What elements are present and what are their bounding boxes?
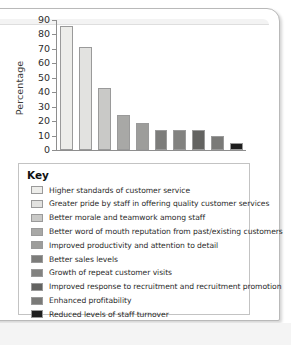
bar <box>230 143 243 150</box>
y-axis-tick-mark <box>52 136 56 137</box>
legend-item: Better word of mouth reputation from pas… <box>27 225 243 237</box>
legend-item: Better morale and teamwork among staff <box>27 212 243 224</box>
legend-item-label: Reduced levels of staff turnover <box>49 310 169 319</box>
bar-slot <box>170 20 189 150</box>
y-axis-tick-mark <box>52 63 56 64</box>
y-axis-tick-label: 0 <box>44 144 50 155</box>
legend-swatch <box>31 214 43 222</box>
bar <box>155 130 168 150</box>
bar-slot <box>227 20 246 150</box>
legend-swatch <box>31 297 43 305</box>
bar-slot <box>208 20 227 150</box>
y-axis-tick-label: 60 <box>38 57 50 68</box>
y-axis-tick-mark <box>52 49 56 50</box>
legend-item-label: Improved response to recruitment and rec… <box>49 282 281 291</box>
y-axis-tick-label: 80 <box>38 28 50 39</box>
y-axis-tick-mark <box>52 107 56 108</box>
bar-slot <box>76 20 95 150</box>
legend-item: Higher standards of customer service <box>27 184 243 196</box>
bar <box>98 88 111 150</box>
legend-item: Growth of repeat customer visits <box>27 267 243 279</box>
legend-item: Improved productivity and attention to d… <box>27 239 243 251</box>
legend-item-label: Growth of repeat customer visits <box>49 268 172 277</box>
legend-swatch <box>31 283 43 291</box>
legend-item-label: Better word of mouth reputation from pas… <box>49 227 283 236</box>
bar-slot <box>95 20 114 150</box>
legend-swatch <box>31 255 43 263</box>
y-axis-tick-label: 40 <box>38 86 50 97</box>
y-axis-tick-label: 70 <box>38 43 50 54</box>
page-root: Percentage 9080706050403020100 Key Highe… <box>0 0 291 345</box>
x-axis-line <box>56 150 246 151</box>
y-axis-tick-label: 20 <box>38 115 50 126</box>
bar-slot <box>189 20 208 150</box>
bar-slot <box>152 20 171 150</box>
bar <box>117 115 130 150</box>
legend-item: Enhanced profitability <box>27 294 243 306</box>
bar-slot <box>133 20 152 150</box>
bar <box>136 123 149 150</box>
bar-slot <box>114 20 133 150</box>
legend-item-label: Greater pride by staff in offering quali… <box>49 199 269 208</box>
legend-swatch <box>31 269 43 277</box>
legend-swatch <box>31 241 43 249</box>
bar <box>173 130 186 150</box>
y-axis-tick-mark <box>52 20 56 21</box>
legend-list: Higher standards of customer serviceGrea… <box>27 184 243 320</box>
legend-key-box: Key Higher standards of customer service… <box>18 163 250 315</box>
y-axis-tick-label: 10 <box>38 130 50 141</box>
y-axis-tick-mark <box>52 92 56 93</box>
legend-item: Better sales levels <box>27 253 243 265</box>
legend-swatch <box>31 310 43 318</box>
plot-area: 9080706050403020100 <box>56 20 246 151</box>
bar <box>79 47 92 150</box>
y-axis-label: Percentage <box>14 52 25 124</box>
y-axis-tick-label: 50 <box>38 72 50 83</box>
legend-item: Reduced levels of staff turnover <box>27 308 243 320</box>
page-bottom-band <box>0 323 291 345</box>
y-axis-tick-mark <box>52 150 56 151</box>
bar <box>211 136 224 150</box>
legend-item: Greater pride by staff in offering quali… <box>27 198 243 210</box>
legend-item-label: Improved productivity and attention to d… <box>49 241 218 250</box>
y-axis-tick-mark <box>52 78 56 79</box>
legend-item-label: Better morale and teamwork among staff <box>49 213 205 222</box>
bar <box>192 130 205 150</box>
legend-swatch <box>31 186 43 194</box>
bar-chart: Percentage 9080706050403020100 <box>18 18 250 158</box>
bar-slot <box>57 20 76 150</box>
bar <box>60 26 73 150</box>
legend-item: Improved response to recruitment and rec… <box>27 281 243 293</box>
legend-item-label: Better sales levels <box>49 255 118 264</box>
legend-item-label: Higher standards of customer service <box>49 186 190 195</box>
legend-item-label: Enhanced profitability <box>49 296 131 305</box>
legend-title: Key <box>27 169 243 181</box>
bar-series <box>57 20 246 150</box>
y-axis-tick-label: 90 <box>38 14 50 25</box>
y-axis-tick-label: 30 <box>38 101 50 112</box>
y-axis-tick-mark <box>52 121 56 122</box>
y-axis-tick-mark <box>52 34 56 35</box>
legend-swatch <box>31 200 43 208</box>
legend-swatch <box>31 228 43 236</box>
